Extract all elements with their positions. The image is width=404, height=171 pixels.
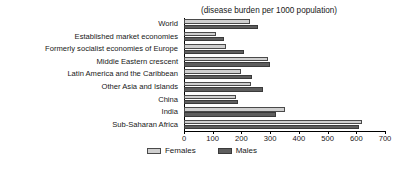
bar-group (184, 68, 385, 81)
legend-swatch-male (218, 148, 232, 154)
bar-group (184, 81, 385, 94)
bar-females (184, 107, 285, 111)
category-label: Middle Eastern crescent (97, 58, 178, 66)
x-tick-label: 500 (321, 134, 334, 143)
x-tick-label: 0 (182, 134, 186, 143)
bar-males (184, 112, 276, 116)
bar-group (184, 31, 385, 44)
chart-rows: WorldEstablished market economiesFormerl… (0, 18, 404, 131)
bar-females (184, 69, 241, 73)
legend-label: Males (236, 146, 257, 155)
category-label: Sub-Saharan Africa (112, 121, 178, 129)
chart-row: Other Asia and Islands (0, 81, 404, 94)
bar-males (184, 75, 252, 79)
x-axis-ticks: 0100200300400500600700 (184, 131, 386, 145)
category-label: Latin America and the Caribbean (67, 71, 178, 79)
legend-swatch-female (147, 148, 161, 154)
x-tick-label: 100 (206, 134, 219, 143)
chart-title: (disease burden per 1000 population) (201, 6, 337, 15)
legend-label: Females (165, 146, 196, 155)
chart-row: Sub-Saharan Africa (0, 118, 404, 131)
bar-females (184, 95, 236, 99)
chart-row: World (0, 18, 404, 31)
bar-males (184, 100, 238, 104)
bar-group (184, 43, 385, 56)
legend-item-male[interactable]: Males (218, 146, 257, 155)
chart-row: Formerly socialist economies of Europe (0, 43, 404, 56)
chart-row: India (0, 106, 404, 119)
bar-males (184, 62, 270, 66)
x-tick-label: 400 (293, 134, 306, 143)
bar-females (184, 120, 362, 124)
bar-group (184, 56, 385, 69)
bar-females (184, 57, 268, 61)
x-tick-label: 300 (264, 134, 277, 143)
category-label: Formerly socialist economies of Europe (45, 46, 178, 54)
bar-males (184, 50, 244, 54)
category-label: Established market economies (75, 33, 178, 41)
chart-legend: FemalesMales (0, 146, 404, 155)
bar-females (184, 19, 250, 23)
bar-males (184, 37, 224, 41)
chart-row: Established market economies (0, 31, 404, 44)
bar-group (184, 93, 385, 106)
legend-item-female[interactable]: Females (147, 146, 196, 155)
bar-females (184, 82, 251, 86)
bar-females (184, 44, 226, 48)
chart-row: Latin America and the Caribbean (0, 68, 404, 81)
x-tick-label: 600 (350, 134, 363, 143)
x-tick-label: 700 (379, 134, 392, 143)
chart-row: Middle Eastern crescent (0, 56, 404, 69)
bar-females (184, 32, 216, 36)
category-label: World (158, 20, 178, 28)
bar-chart: (disease burden per 1000 population) Wor… (0, 0, 404, 171)
category-label: India (162, 108, 178, 116)
bar-group (184, 118, 385, 131)
chart-row: China (0, 93, 404, 106)
bar-group (184, 18, 385, 31)
x-tick-label: 200 (235, 134, 248, 143)
bar-males (184, 25, 258, 29)
bar-group (184, 106, 385, 119)
category-label: Other Asia and Islands (102, 83, 178, 91)
bar-males (184, 125, 359, 129)
category-label: China (158, 96, 178, 104)
bar-males (184, 87, 263, 91)
